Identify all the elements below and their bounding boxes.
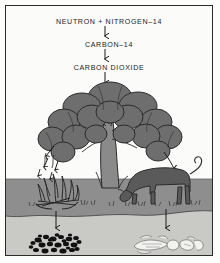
- carbon-14-cycle-figure: NEUTRON + NITROGEN–14 CARBON–14 CARBON D…: [0, 0, 220, 263]
- figure-frame: NEUTRON + NITROGEN–14 CARBON–14 CARBON D…: [5, 5, 213, 256]
- scene-illustration: [6, 6, 213, 256]
